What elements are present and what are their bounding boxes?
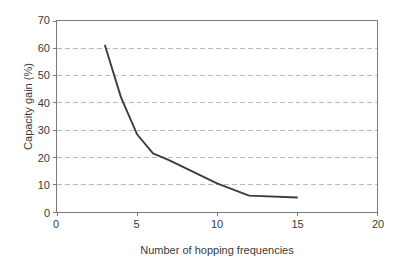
x-tick-label: 15: [283, 218, 313, 230]
y-tick-label: 70: [24, 14, 50, 26]
x-tick-label: 10: [202, 218, 232, 230]
chart-figure: Capacity gain (%) 010203040506070 051015…: [0, 0, 407, 269]
x-tick-label: 0: [41, 218, 71, 230]
data-series-line: [57, 21, 377, 212]
y-tick-label: 50: [24, 69, 50, 81]
x-tick-label: 5: [122, 218, 152, 230]
y-axis-tick-labels: 010203040506070: [22, 20, 50, 213]
x-axis-tick-labels: 05101520: [56, 218, 378, 234]
y-tick-label: 60: [24, 42, 50, 54]
y-tick-label: 20: [24, 152, 50, 164]
y-tick-label: 30: [24, 124, 50, 136]
y-tick-label: 40: [24, 97, 50, 109]
x-axis-title: Number of hopping frequencies: [56, 244, 378, 256]
y-tick-label: 10: [24, 179, 50, 191]
plot-area: [56, 20, 378, 213]
x-tick-label: 20: [363, 218, 393, 230]
